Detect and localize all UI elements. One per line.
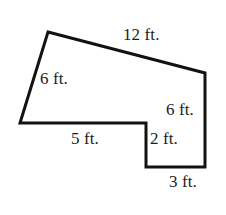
dimension-label-right: 6 ft. bbox=[166, 101, 194, 118]
geometry-figure: . 12 ft. 6 ft. 6 ft. 5 ft. 2 ft. 3 ft. bbox=[0, 0, 226, 215]
dimension-label-base: 3 ft. bbox=[169, 173, 197, 190]
dimension-label-left: 6 ft. bbox=[40, 70, 68, 87]
dimension-label-notch: 2 ft. bbox=[150, 130, 178, 147]
dimension-label-bottom: 5 ft. bbox=[71, 130, 99, 147]
dimension-label-top: 12 ft. bbox=[123, 26, 159, 43]
